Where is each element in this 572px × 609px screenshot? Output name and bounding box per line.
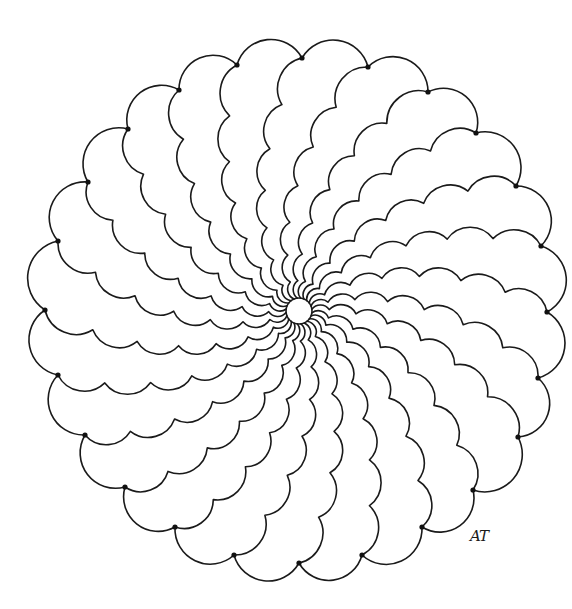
rim-scallop bbox=[127, 85, 179, 129]
arm-curve bbox=[307, 227, 541, 300]
arm-curve bbox=[218, 65, 289, 303]
rim-dot bbox=[125, 126, 130, 131]
rim-dot bbox=[365, 64, 370, 69]
rim-dot bbox=[419, 524, 424, 529]
arm-curve bbox=[293, 91, 428, 298]
rim-dot bbox=[82, 432, 87, 437]
rim-dot bbox=[473, 130, 478, 135]
rim-dot bbox=[544, 309, 549, 314]
rim-dot bbox=[535, 375, 540, 380]
arm-curve bbox=[311, 315, 432, 527]
rim-dot bbox=[122, 484, 127, 489]
rim-dot bbox=[55, 238, 60, 243]
rim-scallop bbox=[538, 312, 565, 378]
arm-curve bbox=[85, 323, 295, 445]
rim-scallop bbox=[362, 527, 422, 564]
rim-dot bbox=[234, 62, 239, 67]
rim-dot bbox=[296, 560, 301, 565]
rim-dot bbox=[172, 524, 177, 529]
rim-dot bbox=[359, 552, 364, 557]
rim-scallop bbox=[83, 128, 128, 182]
artist-signature: AT bbox=[470, 527, 488, 545]
center-circle bbox=[286, 298, 312, 324]
rim-scallop bbox=[302, 40, 368, 67]
mandala-drawing bbox=[0, 0, 572, 609]
rim-scallop bbox=[234, 555, 299, 581]
rim-scallop bbox=[518, 378, 550, 437]
rim-dot bbox=[299, 55, 304, 60]
rim-dot bbox=[538, 243, 543, 248]
rim-scallop bbox=[368, 57, 428, 92]
rim-dot bbox=[176, 87, 181, 92]
rim-scallop bbox=[124, 487, 175, 531]
rim-dot bbox=[470, 487, 475, 492]
arm-curve bbox=[303, 176, 516, 299]
rim-dot bbox=[85, 179, 90, 184]
outer-scallops bbox=[28, 39, 567, 581]
rim-dot bbox=[55, 372, 60, 377]
rim-scallop bbox=[473, 437, 522, 492]
rim-scallop bbox=[29, 310, 58, 375]
arm-curve bbox=[58, 321, 291, 394]
rim-dot bbox=[425, 89, 430, 94]
rim-dot bbox=[513, 183, 518, 188]
rim-scallop bbox=[428, 88, 478, 133]
rim-dot bbox=[42, 307, 47, 312]
rim-dot bbox=[515, 434, 520, 439]
rim-scallop bbox=[49, 182, 88, 241]
rim-scallop bbox=[48, 375, 85, 435]
rim-scallop bbox=[175, 527, 234, 564]
rim-scallop bbox=[541, 246, 566, 312]
arm-curve bbox=[45, 310, 289, 354]
rim-scallop bbox=[28, 241, 58, 310]
rim-dot bbox=[231, 552, 236, 557]
